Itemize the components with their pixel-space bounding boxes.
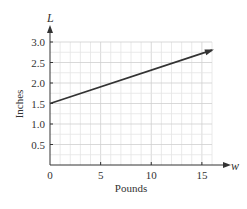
x-tick-label: 5 — [98, 169, 104, 181]
y-axis-title: Inches — [13, 90, 25, 119]
series-arrow-icon — [204, 50, 213, 56]
chart: 0510150.51.01.52.02.53.0 L w Pounds Inch… — [0, 0, 247, 209]
x-axis-arrow-icon — [223, 162, 231, 168]
x-tick-label: 0 — [47, 169, 53, 181]
grid — [50, 42, 212, 165]
x-tick-label: 15 — [196, 169, 208, 181]
y-tick-label: 2.5 — [31, 57, 45, 69]
x-variable-label: w — [231, 159, 239, 173]
x-axis-title: Pounds — [115, 182, 147, 194]
y-tick-label: 2.0 — [31, 77, 45, 89]
y-tick-label: 1.5 — [31, 98, 45, 110]
x-tick-label: 10 — [146, 169, 158, 181]
y-tick-label: 0.5 — [31, 139, 45, 151]
y-tick-label: 3.0 — [31, 36, 45, 48]
y-axis-arrow-icon — [47, 25, 53, 33]
y-tick-label: 1.0 — [31, 118, 45, 130]
axes — [47, 25, 231, 168]
y-variable-label: L — [46, 11, 54, 25]
series — [50, 50, 214, 104]
